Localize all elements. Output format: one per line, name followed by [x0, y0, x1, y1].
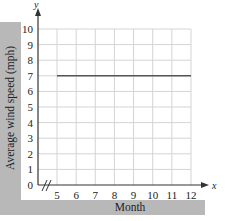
y-tick-label: 9	[28, 39, 34, 51]
y-axis-variable: y	[33, 0, 39, 10]
x-tick-label: 5	[54, 189, 60, 201]
x-tick-label: 7	[93, 189, 99, 201]
x-tick-label: 11	[167, 189, 178, 201]
y-tick-label: 5	[28, 101, 34, 113]
y-tick-label: 7	[28, 70, 34, 82]
x-tick-label: 8	[112, 189, 118, 201]
x-tick-label: 9	[131, 189, 137, 201]
y-tick-label: 1	[28, 163, 34, 175]
y-tick-label: 10	[22, 23, 34, 35]
x-tick-label: 12	[186, 189, 197, 201]
y-tick-label: 8	[28, 54, 34, 66]
chart-svg: yx01234567891056789101112	[0, 0, 226, 221]
y-tick-label: 3	[28, 132, 34, 144]
y-tick-label: 4	[28, 117, 34, 129]
x-axis-variable: x	[211, 180, 217, 191]
x-tick-label: 10	[147, 189, 159, 201]
y-tick-label: 6	[28, 85, 34, 97]
x-tick-label: 6	[73, 189, 79, 201]
x-axis-arrow-icon	[201, 182, 209, 188]
y-tick-label: 2	[28, 148, 34, 160]
y-tick-label: 0	[28, 179, 34, 191]
